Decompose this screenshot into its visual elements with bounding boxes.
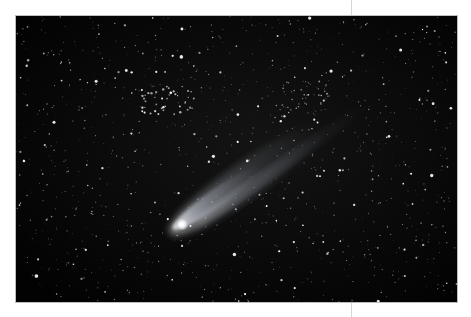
- starfield-image: [16, 16, 457, 302]
- comet-photo: [15, 15, 458, 303]
